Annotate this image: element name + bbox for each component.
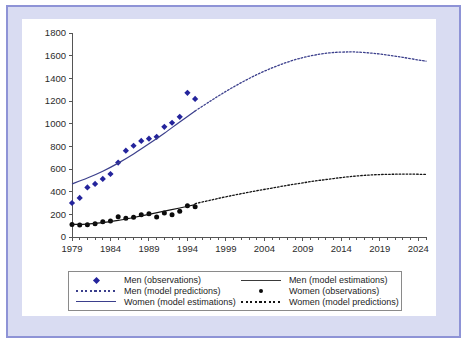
dot-black-icon bbox=[238, 286, 284, 296]
dotted-line-black-icon bbox=[238, 297, 284, 307]
legend-item-men-model-predictions: Men (model predictions) bbox=[73, 286, 236, 297]
legend-label: Men (observations) bbox=[124, 275, 201, 285]
legend-label: Women (model estimations) bbox=[124, 297, 236, 307]
legend-item-women-observations: Women (observations) bbox=[238, 286, 399, 297]
chart-legend: Men (observations) Men (model estimation… bbox=[68, 271, 402, 311]
dotted-line-blue-icon bbox=[73, 286, 119, 296]
legend-item-men-observations: Men (observations) bbox=[73, 275, 236, 286]
legend-item-women-model-predictions: Women (model predictions) bbox=[238, 296, 399, 307]
legend-label: Men (model predictions) bbox=[124, 286, 221, 296]
legend-label: Women (model predictions) bbox=[289, 297, 399, 307]
solid-line-black-icon bbox=[238, 275, 284, 285]
legend-label: Men (model estimations) bbox=[289, 275, 388, 285]
legend-item-men-model-estimations: Men (model estimations) bbox=[238, 275, 399, 286]
legend-item-women-model-estimations: Women (model estimations) bbox=[73, 296, 236, 307]
diamond-blue-icon bbox=[73, 275, 119, 285]
solid-line-blue-icon bbox=[73, 297, 119, 307]
legend-label: Women (observations) bbox=[289, 286, 379, 296]
